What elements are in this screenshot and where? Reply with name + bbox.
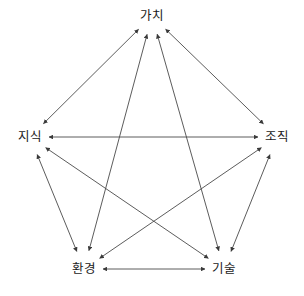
edge-knowledge-value bbox=[43, 29, 138, 123]
edge-value-technology bbox=[157, 34, 219, 250]
edge-knowledge-technology bbox=[46, 148, 209, 259]
pentagram-diagram: 가치 지식 조직 환경 기술 bbox=[0, 0, 304, 296]
node-label-organization: 조직 bbox=[265, 131, 290, 144]
edge-group bbox=[37, 29, 270, 269]
node-label-value: 가치 bbox=[140, 10, 165, 23]
node-label-technology: 기술 bbox=[212, 263, 237, 276]
edge-organization-technology bbox=[231, 155, 270, 252]
edge-value-environment bbox=[89, 34, 147, 250]
node-label-environment: 환경 bbox=[72, 263, 97, 276]
edge-layer bbox=[0, 0, 304, 296]
node-label-knowledge: 지식 bbox=[18, 131, 43, 144]
edge-organization-environment bbox=[100, 148, 262, 259]
edge-environment-knowledge bbox=[37, 155, 77, 252]
edge-value-organization bbox=[166, 29, 264, 124]
